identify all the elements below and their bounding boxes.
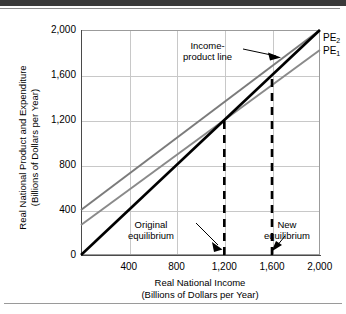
series-label-pe1: PE1 [323, 45, 340, 57]
y-tick-2000: 2,000 [32, 25, 76, 35]
y-axis-title-main: Real National Product and Expenditure [17, 65, 28, 229]
x-tick-1600: 1,600 [248, 262, 296, 272]
x-axis-title-units: (Billions of Dollars per Year) [141, 289, 258, 300]
figure-container: 2,000 1,600 1,200 800 400 0 400 800 1,20… [0, 0, 346, 314]
annotation-arrow-original-equilibrium-shaft [196, 223, 218, 245]
x-axis-title: Real National Income (Billions of Dollar… [60, 277, 340, 300]
x-tick-400: 400 [105, 262, 153, 272]
annotation-income-product-line-text1: Income- [190, 40, 224, 51]
x-axis-title-main: Real National Income [155, 277, 246, 288]
series-label-pe1-text: PE [323, 45, 336, 56]
annotation-income-product-line-text2: product line [183, 51, 232, 62]
series-label-pe2: PE2 [323, 32, 340, 44]
series-label-pe2-text: PE [323, 32, 336, 43]
x-axis-tick-labels: 400 800 1,200 1,600 2,000 [0, 262, 346, 276]
series-label-pe2-sub: 2 [336, 37, 340, 44]
annotation-income-product-line: Income- product line [183, 40, 232, 62]
x-tick-2000: 2,000 [296, 262, 344, 272]
y-axis-title: Real National Product and Expenditure (B… [17, 35, 40, 261]
annotation-new-equilibrium: New equilibrium [264, 219, 310, 241]
y-axis-title-units: (Billions of Dollars per Year) [28, 89, 39, 206]
annotation-new-equilibrium-text1: New [277, 219, 296, 230]
annotation-arrow-new-equilibrium-head [272, 241, 283, 252]
x-tick-800: 800 [153, 262, 201, 272]
series-label-pe1-sub: 1 [336, 50, 340, 57]
annotation-arrow-original-equilibrium-head [212, 242, 223, 252]
annotation-original-equilibrium-text1: Original [135, 219, 168, 230]
annotation-original-equilibrium-text2: equilibrium [128, 230, 174, 241]
annotation-arrow-income-product-head [268, 53, 281, 61]
x-tick-1200: 1,200 [200, 262, 248, 272]
annotation-original-equilibrium: Original equilibrium [128, 219, 174, 241]
footer-rule [4, 303, 342, 304]
annotation-new-equilibrium-text2: equilibrium [264, 230, 310, 241]
series-line-pe1 [81, 50, 320, 225]
